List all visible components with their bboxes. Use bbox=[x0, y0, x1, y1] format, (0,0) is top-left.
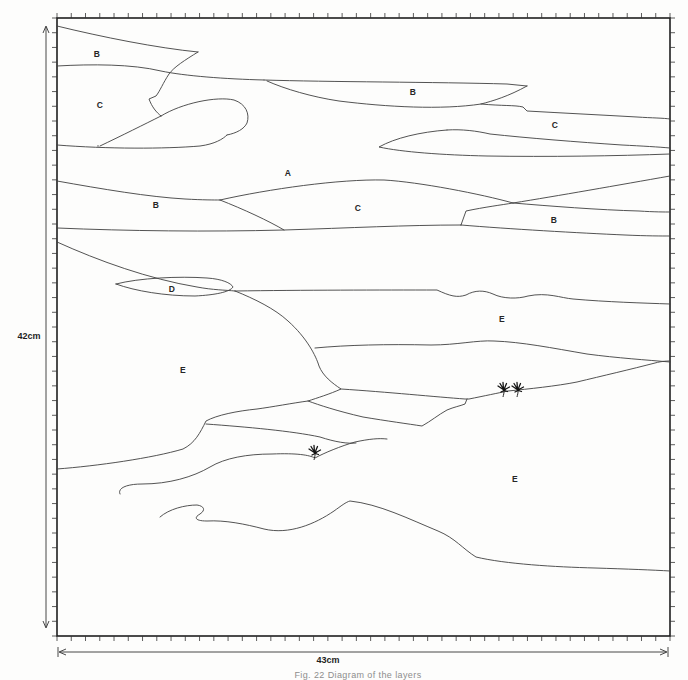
contour-path bbox=[57, 181, 220, 200]
region-label-d: D bbox=[169, 284, 175, 294]
contour-path bbox=[315, 341, 670, 362]
contour-path bbox=[341, 361, 670, 399]
contour-path bbox=[57, 65, 264, 80]
contour-path bbox=[267, 81, 527, 107]
contour-path bbox=[149, 52, 198, 116]
contour-path bbox=[160, 501, 670, 571]
region-label-a: A bbox=[285, 168, 291, 178]
region-label-b: B bbox=[410, 87, 416, 97]
region-label-e: E bbox=[499, 314, 505, 324]
contour-path bbox=[461, 225, 670, 236]
region-label-e: E bbox=[512, 474, 518, 484]
contour-path bbox=[100, 116, 161, 146]
contour-path bbox=[264, 80, 527, 86]
contour-path bbox=[57, 26, 198, 52]
region-label-b: B bbox=[94, 49, 100, 59]
plant-icon bbox=[309, 446, 321, 461]
region-label-e: E bbox=[180, 365, 186, 375]
contour-path bbox=[235, 290, 670, 304]
width-dimension-label: 43cm bbox=[316, 655, 339, 665]
contour-path bbox=[206, 424, 356, 443]
contour-path bbox=[308, 399, 467, 426]
region-label-b: B bbox=[153, 200, 159, 210]
contour-path bbox=[461, 176, 670, 225]
contour-path bbox=[220, 200, 284, 230]
plant-icon bbox=[498, 383, 510, 398]
region-label-c: C bbox=[97, 100, 103, 110]
contour-path bbox=[481, 104, 670, 119]
contour-path bbox=[447, 130, 670, 148]
contour-path bbox=[57, 225, 461, 231]
horizontal-dimension bbox=[58, 647, 668, 657]
contour-path bbox=[119, 439, 387, 494]
region-label-c: C bbox=[552, 120, 558, 130]
scale-ticks bbox=[52, 13, 675, 641]
region-label-c: C bbox=[355, 203, 361, 213]
scan-speck bbox=[97, 145, 99, 147]
region-label-b: B bbox=[551, 215, 557, 225]
contour-path bbox=[57, 291, 341, 469]
contour-path bbox=[161, 99, 248, 135]
plan-border bbox=[57, 18, 670, 636]
vertical-dimension bbox=[43, 26, 49, 628]
contour-path bbox=[513, 203, 670, 212]
contour-path bbox=[57, 242, 235, 291]
contour-lines bbox=[57, 26, 670, 571]
contour-path bbox=[57, 135, 227, 148]
height-dimension-label: 42cm bbox=[17, 331, 40, 341]
figure-caption: Fig. 22 Diagram of the layers bbox=[294, 670, 421, 680]
contour-path bbox=[220, 180, 513, 203]
contour-path bbox=[379, 130, 670, 156]
